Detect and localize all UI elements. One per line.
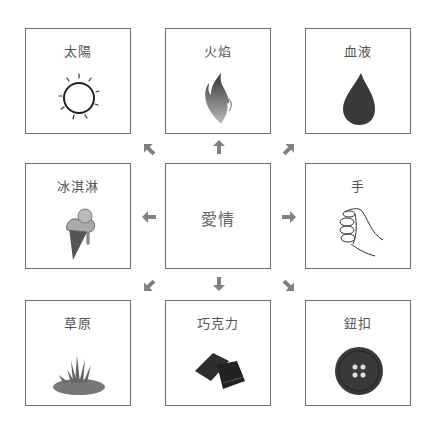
arrow-up-left-icon	[141, 141, 157, 157]
arrow-left-icon	[141, 209, 157, 225]
flame-icon	[189, 69, 249, 125]
grass-icon	[49, 341, 109, 397]
node-label: 鈕扣	[306, 313, 410, 332]
node-label: 巧克力	[166, 313, 270, 332]
node-label: 火焰	[166, 41, 270, 60]
center-label: 愛情	[166, 206, 270, 230]
node-label: 手	[306, 176, 410, 195]
sun-icon	[49, 69, 109, 125]
arrow-down-icon	[211, 276, 227, 292]
ice-cream-icon	[49, 204, 109, 260]
chocolate-icon	[189, 341, 249, 397]
node-sun: 太陽	[25, 28, 131, 134]
node-button: 鈕扣	[305, 300, 411, 406]
node-fire: 火焰	[165, 28, 271, 134]
arrow-right-icon	[281, 209, 297, 225]
fist-icon	[329, 204, 389, 260]
arrow-down-left-icon	[141, 278, 157, 294]
button-icon	[329, 341, 389, 397]
arrow-up-icon	[211, 139, 227, 155]
arrow-down-right-icon	[281, 278, 297, 294]
node-icecream: 冰淇淋	[25, 163, 131, 269]
node-chocolate: 巧克力	[165, 300, 271, 406]
blood-drop-icon	[329, 69, 389, 125]
arrow-up-right-icon	[281, 141, 297, 157]
center-node-love: 愛情	[165, 163, 271, 269]
node-label: 血液	[306, 41, 410, 60]
node-hand: 手	[305, 163, 411, 269]
node-grass: 草原	[25, 300, 131, 406]
node-label: 冰淇淋	[26, 176, 130, 195]
node-label: 太陽	[26, 41, 130, 60]
node-label: 草原	[26, 313, 130, 332]
node-blood: 血液	[305, 28, 411, 134]
